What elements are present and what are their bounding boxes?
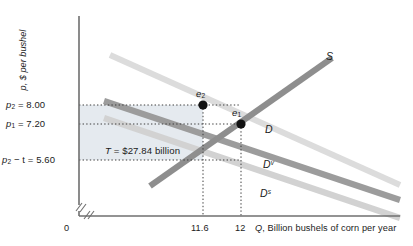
y-axis-title: p, $ per bushel bbox=[18, 13, 28, 108]
y-tick-label-p2-minus-t: p2 − t = 5.60 bbox=[2, 155, 55, 166]
curve-label-Dv: Dv bbox=[263, 159, 274, 170]
y-axis-title-text: p, $ per bushel bbox=[18, 30, 28, 91]
point-e1 bbox=[236, 119, 245, 128]
y-tick-label-p2-value: = 8.00 bbox=[15, 99, 45, 110]
x-axis-title-text: , Billion bushels of corn per year bbox=[262, 223, 396, 233]
curve-label-Dv-sup: v bbox=[271, 159, 274, 166]
curve-label-Ds-base: D bbox=[260, 187, 268, 199]
chart-canvas bbox=[0, 0, 413, 246]
curve-label-Ds: Ds bbox=[260, 188, 271, 199]
x-axis-title: Q, Billion bushels of corn per year bbox=[255, 224, 396, 233]
point-e2 bbox=[198, 100, 207, 109]
supply-demand-tax-chart: p, $ per bushel p2 = 8.00 p1 = 7.20 p2 −… bbox=[0, 0, 413, 246]
curve-label-D: D bbox=[265, 124, 273, 135]
point-label-e2: e2 bbox=[196, 89, 205, 100]
curve-label-S: S bbox=[326, 51, 333, 62]
point-label-e1: e1 bbox=[232, 108, 241, 119]
y-tick-label-p2: p2 = 8.00 bbox=[6, 100, 45, 111]
point-label-e1-sub: 1 bbox=[237, 111, 241, 118]
tax-revenue-value: = $27.84 billion bbox=[111, 145, 180, 156]
x-tick-label-12: 12 bbox=[235, 224, 245, 233]
y-tick-label-p1-value: = 7.20 bbox=[15, 118, 45, 129]
x-origin-label: 0 bbox=[64, 224, 69, 233]
y-tick-label-p2-minus-t-value: − t = 5.60 bbox=[11, 154, 55, 165]
x-tick-label-11-6: 11.6 bbox=[191, 224, 209, 233]
tax-revenue-label: T = $27.84 billion bbox=[105, 146, 180, 156]
curve-label-Ds-sup: s bbox=[268, 188, 271, 195]
point-label-e2-sub: 2 bbox=[201, 92, 205, 99]
curve-label-Dv-base: D bbox=[263, 158, 271, 170]
y-tick-label-p1: p1 = 7.20 bbox=[6, 119, 45, 130]
